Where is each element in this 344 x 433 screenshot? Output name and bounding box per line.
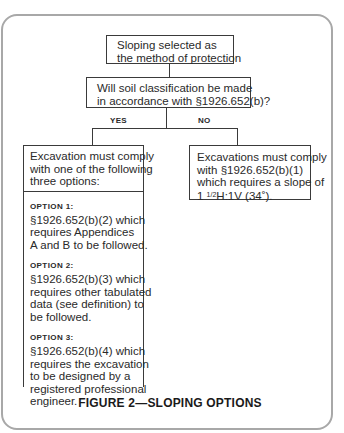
option-line: §1926.652(b)(3) which	[30, 273, 143, 286]
start-node-line: the method of protection	[117, 52, 233, 65]
header-line: with one of the following	[30, 163, 143, 176]
yes-branch-node: Excavation must comply with one of the f…	[23, 145, 144, 387]
option-line: requires Appendices	[30, 226, 143, 239]
option-3-title: OPTION 3:	[30, 333, 143, 343]
connector-question-branch	[166, 108, 167, 128]
branch-line	[92, 128, 238, 129]
yes-branch-header: Excavation must comply with one of the f…	[24, 146, 143, 192]
slope-whole: 1	[197, 190, 207, 202]
figure-caption: FIGURE 2—SLOPING OPTIONS	[0, 396, 340, 410]
connector-start-question	[169, 64, 170, 77]
no-branch-line: with §1926.652(b)(1)	[197, 164, 310, 177]
no-branch-line: Excavations must comply	[197, 151, 310, 164]
header-line: three options:	[30, 175, 143, 188]
option-1-title: OPTION 1:	[30, 202, 143, 212]
option-line: be followed.	[30, 311, 143, 324]
question-line: in accordance with §1926.652(b)?	[97, 95, 250, 108]
option-line: §1926.652(b)(2) which	[30, 214, 143, 227]
connector-no	[237, 128, 238, 145]
option-line: requires other tabulated	[30, 286, 143, 299]
slope-value: 1 1/2H:1V (34˚).	[197, 189, 310, 203]
option-line: §1926.652(b)(4) which	[30, 345, 143, 358]
question-line: Will soil classification be made	[97, 82, 250, 95]
option-line: registered professional	[30, 383, 143, 396]
question-node: Will soil classification be made in acco…	[86, 77, 251, 108]
no-label: NO	[198, 116, 211, 125]
header-line: Excavation must comply	[30, 150, 143, 163]
option-1: OPTION 1: §1926.652(b)(2) which requires…	[24, 202, 143, 252]
yes-label: YES	[110, 116, 127, 125]
no-branch-line: which requires a slope of	[197, 176, 310, 189]
option-2-body: §1926.652(b)(3) which requires other tab…	[30, 273, 143, 323]
option-line: A and B to be followed.	[30, 239, 143, 252]
option-1-body: §1926.652(b)(2) which requires Appendice…	[30, 214, 143, 252]
connector-yes	[92, 128, 93, 145]
start-node: Sloping selected as the method of protec…	[106, 35, 234, 64]
option-2: OPTION 2: §1926.652(b)(3) which requires…	[24, 261, 143, 323]
start-node-line: Sloping selected as	[117, 39, 233, 52]
option-line: requires the excavation	[30, 358, 143, 371]
option-2-title: OPTION 2:	[30, 261, 143, 271]
no-branch-node: Excavations must comply with §1926.652(b…	[189, 145, 311, 200]
option-line: data (see definition) to	[30, 298, 143, 311]
slope-fraction: 1/2	[207, 191, 217, 198]
option-line: to be designed by a	[30, 370, 143, 383]
slope-rest: H:1V (34˚).	[216, 190, 272, 202]
